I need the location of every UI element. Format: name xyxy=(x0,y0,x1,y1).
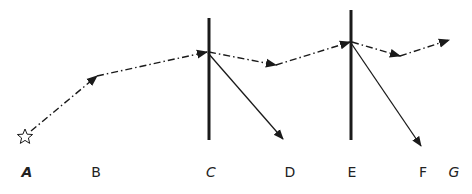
label-c: C xyxy=(206,164,216,180)
solid-arrow-e-f xyxy=(351,43,421,146)
label-f: F xyxy=(419,164,427,180)
diagram-canvas xyxy=(0,0,472,194)
label-b: B xyxy=(91,164,101,180)
solid-arrow-c-d xyxy=(208,53,283,139)
star-icon xyxy=(17,129,32,143)
label-d: D xyxy=(285,164,296,180)
dashdot-path xyxy=(31,40,449,131)
label-a: A xyxy=(22,164,33,180)
label-e: E xyxy=(348,164,357,180)
label-g: G xyxy=(449,164,460,180)
